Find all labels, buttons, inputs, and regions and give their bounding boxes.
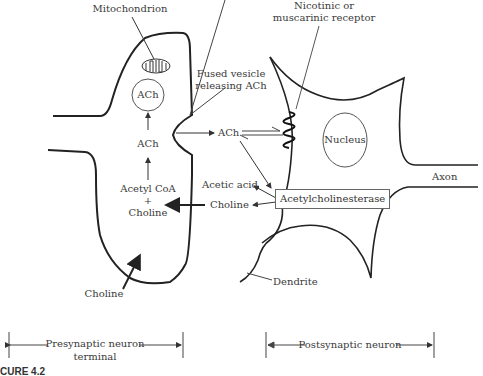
dendrite-label: Dendrite (273, 276, 318, 288)
plus-sign: + (144, 195, 152, 207)
choline-cleft-label: Choline (210, 199, 249, 211)
postsynaptic-span-label: Postsynaptic neuron (298, 339, 401, 351)
choline-uptake-label: Choline (85, 288, 124, 300)
ach-cleft-label: ACh (218, 127, 239, 139)
ach-vesicle-label: ACh (137, 89, 158, 101)
receptor-label-line2: muscarinic receptor (273, 12, 375, 24)
choline-inside-label: Choline (129, 207, 168, 219)
acetic-acid-label: Acetic acid (202, 179, 258, 191)
nucleus-label: Nucleus (324, 134, 365, 146)
axon-label: Axon (432, 171, 457, 183)
presynaptic-terminal-outline (48, 33, 192, 283)
receptor-label-line1: Nicotinic or (294, 0, 354, 12)
presynaptic-span-label-line1: Presynaptic neuron (45, 338, 144, 350)
fused-vesicle-label-line1: Fused vesicle (197, 68, 266, 80)
presynaptic-span-label-line2: terminal (74, 351, 117, 363)
acetyl-coa-label: Acetyl CoA (120, 183, 176, 195)
mitochondrion-label: Mitochondrion (93, 3, 168, 15)
postsynaptic-neuron-outline (240, 57, 478, 282)
fused-vesicle-label-line2: releasing ACh (195, 80, 266, 92)
acetylcholinesterase-box: Acetylcholinesterase (275, 189, 390, 209)
ach-presynaptic-label: ACh (137, 138, 158, 150)
figure-caption: CURE 4.2 (0, 366, 45, 376)
